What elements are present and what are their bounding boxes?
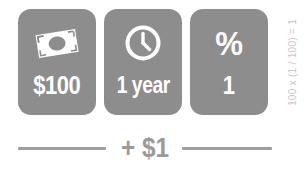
divider-right <box>182 147 272 150</box>
result-row: + $1 <box>0 126 305 170</box>
card-time: 1 year <box>104 9 182 115</box>
card-time-label: 1 year <box>116 73 169 97</box>
cards-row: $100 1 year % 1 <box>18 9 268 115</box>
result-amount: + $1 <box>114 126 177 170</box>
clock-icon <box>104 20 182 66</box>
formula-annotation-text: 100 x (1 / 100) = 1 <box>288 18 299 105</box>
interest-infographic: $100 1 year % 1 100 x (1 / 100) = 1 <box>0 0 305 175</box>
banknote-icon <box>18 20 96 66</box>
divider-left <box>18 147 106 150</box>
percent-icon: % <box>190 20 268 66</box>
card-rate-label: 1 <box>223 73 235 98</box>
formula-annotation: 100 x (1 / 100) = 1 <box>282 9 304 115</box>
card-principal: $100 <box>18 9 96 115</box>
card-principal-label: $100 <box>33 73 80 98</box>
percent-glyph: % <box>215 26 243 60</box>
card-rate: % 1 <box>190 9 268 115</box>
